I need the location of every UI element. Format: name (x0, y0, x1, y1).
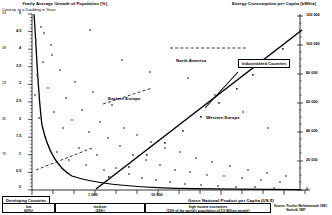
right-tick-60000: 60 000 (306, 100, 318, 104)
source-line-2: Statistik 1997 (286, 208, 306, 212)
left-tick-1-5: 1,5 (16, 134, 21, 138)
left-tick-2-5: 2,5 (16, 99, 21, 103)
left-tick-3: 3 (19, 81, 21, 85)
left-tick-2: 2 (19, 117, 21, 121)
left-axis-ticks (28, 14, 32, 190)
region-label-north-america: North America (176, 58, 206, 63)
income-group-high: high income economies (10% of the world'… (145, 203, 271, 213)
right-tick-0: 0 (306, 187, 308, 191)
x-tick-1000: 1 000 (88, 193, 98, 197)
trend-dashed-lines (36, 48, 246, 170)
right-axis-minor-ticks (299, 23, 302, 182)
income-group-low: low (65%) (2, 203, 55, 213)
industrialized-countries-box: Industrialized Countries (238, 59, 290, 68)
doubling-years-35: 35 (2, 117, 6, 121)
right-tick-20000: 20 000 (306, 158, 318, 162)
energy-consumption-line (96, 30, 302, 189)
doubling-years-23: 23 (2, 81, 6, 85)
right-tick-120000: 120 000 (306, 13, 320, 17)
doubling-years-18: 18 (2, 46, 6, 50)
x-tick-10000: 10 000 (151, 193, 163, 197)
income-group-low-pct: (65%) (3, 209, 54, 213)
right-tick-40000: 40 000 (306, 129, 318, 133)
left-tick-0-5: 0,5 (16, 169, 21, 173)
left-tick-0: 0 (19, 185, 21, 189)
doubling-years-14: 14 (2, 11, 6, 15)
income-group-medium: medium (25%) (55, 203, 145, 213)
right-tick-100000: 100 000 (306, 42, 320, 46)
industrialized-leader-line (205, 72, 238, 108)
region-label-western-europe: Western Europe (206, 115, 240, 120)
income-group-medium-pct: (25%) (56, 209, 144, 213)
left-tick-4-5: 4,5 (16, 29, 21, 33)
chart-canvas (0, 0, 332, 215)
left-tick-1: 1 (19, 152, 21, 156)
scatter-population-growth (34, 26, 287, 189)
x-axis-ticks (32, 190, 305, 195)
left-tick-5: 5 (19, 11, 21, 15)
left-tick-3-5: 3,5 (16, 64, 21, 68)
right-tick-80000: 80 000 (306, 71, 318, 75)
income-group-high-note: (10% of the world's population of 5.5 Bi… (146, 209, 270, 213)
left-tick-4: 4 (19, 46, 21, 50)
doubling-years-70: 70 (2, 152, 6, 156)
region-label-eastern-europe: Eastern Europe (108, 96, 140, 101)
population-growth-curve (34, 14, 300, 190)
